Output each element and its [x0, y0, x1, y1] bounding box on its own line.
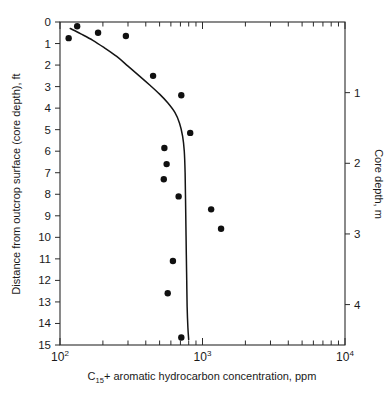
data-point [178, 334, 184, 340]
y-axis-right-title: Core depth, m [373, 149, 385, 219]
y-axis-tick-labels: 0123456789101112131415 [38, 16, 51, 351]
data-point [178, 92, 184, 98]
data-point [65, 35, 71, 41]
y-tick-label-right: 3 [354, 228, 360, 240]
y-tick-label: 12 [38, 274, 51, 286]
data-point [208, 206, 214, 212]
axes-frame [60, 22, 345, 345]
data-point [175, 193, 181, 199]
data-point [170, 258, 176, 264]
y-tick-label: 6 [45, 145, 51, 157]
y-tick-label: 3 [45, 81, 51, 93]
y-tick-label: 14 [38, 317, 51, 329]
y-axis-title: Distance from outcrop surface (core dept… [10, 73, 22, 294]
data-point [163, 161, 169, 167]
data-point-group [65, 23, 224, 341]
figure-container: 102103104 0123456789101112131415 1234 C1… [0, 0, 387, 395]
data-point [74, 23, 80, 29]
y-tick-label: 10 [38, 231, 51, 243]
data-point [161, 176, 167, 182]
x-axis-title: C15+ aromatic hydrocarbon concentration,… [88, 370, 317, 385]
x-axis-bottom-ticks [60, 338, 345, 345]
data-point [95, 30, 101, 36]
y-tick-label: 0 [45, 16, 51, 28]
y-tick-label: 5 [45, 124, 51, 136]
fitted-curve [70, 28, 188, 339]
y-axis-right-tick-labels: 1234 [354, 87, 361, 311]
y-tick-label: 7 [45, 167, 51, 179]
x-axis-tick-labels: 102103104 [51, 349, 354, 364]
y-tick-label: 4 [45, 102, 52, 114]
y-tick-label-right: 2 [354, 157, 360, 169]
y-tick-label: 8 [45, 188, 51, 200]
chart-canvas: 102103104 0123456789101112131415 1234 C1… [0, 0, 387, 395]
y-tick-label: 9 [45, 210, 51, 222]
y-tick-label: 2 [45, 59, 51, 71]
y-tick-label: 15 [38, 339, 51, 351]
data-point [165, 290, 171, 296]
y-axis-left-ticks [55, 22, 60, 345]
data-point [218, 226, 224, 232]
x-tick-label: 104 [336, 349, 354, 364]
x-tick-label: 102 [51, 349, 69, 364]
data-point [187, 130, 193, 136]
y-axis-right-ticks [345, 93, 350, 305]
y-tick-label: 1 [45, 38, 51, 50]
y-tick-label-right: 1 [354, 87, 360, 99]
x-tick-label: 103 [194, 349, 212, 364]
data-point [161, 145, 167, 151]
y-tick-label-right: 4 [354, 299, 361, 311]
plot-frame [60, 22, 345, 345]
y-tick-label: 11 [39, 253, 51, 265]
y-tick-label: 13 [38, 296, 51, 308]
data-point [123, 33, 129, 39]
data-point [150, 73, 156, 79]
x-axis-top-ticks [60, 22, 345, 29]
